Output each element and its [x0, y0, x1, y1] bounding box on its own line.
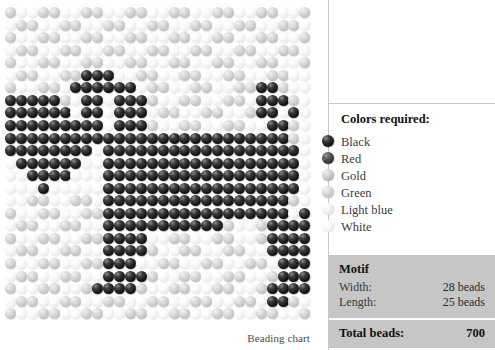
- bead: [267, 82, 278, 93]
- bead: [5, 45, 16, 56]
- bead: [125, 308, 136, 319]
- bead: [169, 195, 180, 206]
- bead: [136, 95, 147, 106]
- motif-length-value: 25 beads: [443, 295, 485, 310]
- bead: [256, 170, 267, 181]
- bead: [38, 283, 49, 294]
- bead: [245, 158, 256, 169]
- bead: [136, 308, 147, 319]
- bead: [169, 82, 180, 93]
- bead: [49, 170, 60, 181]
- bead: [5, 107, 16, 118]
- bead: [49, 45, 60, 56]
- bead: [5, 133, 16, 144]
- bead: [103, 70, 114, 81]
- bead: [60, 20, 71, 31]
- motif-width-row: Width: 28 beads: [339, 280, 485, 295]
- bead: [223, 283, 234, 294]
- bead: [5, 296, 16, 307]
- bead: [234, 107, 245, 118]
- bead: [136, 220, 147, 231]
- bead: [223, 308, 234, 319]
- bead: [190, 95, 201, 106]
- bead: [114, 195, 125, 206]
- bead: [125, 107, 136, 118]
- bead: [81, 220, 92, 231]
- bead: [278, 296, 289, 307]
- legend-label: Black: [341, 135, 370, 149]
- bead: [179, 45, 190, 56]
- bead: [212, 57, 223, 68]
- bead: [60, 245, 71, 256]
- bead: [114, 233, 125, 244]
- bead: [103, 20, 114, 31]
- bead: [16, 82, 27, 93]
- bead: [103, 170, 114, 181]
- bead: [158, 195, 169, 206]
- bead: [38, 82, 49, 93]
- bead: [81, 208, 92, 219]
- bead: [136, 195, 147, 206]
- bead: [158, 133, 169, 144]
- bead: [70, 20, 81, 31]
- bead: [179, 7, 190, 18]
- bead: [81, 296, 92, 307]
- bead: [256, 57, 267, 68]
- bead: [81, 95, 92, 106]
- bead: [38, 220, 49, 231]
- legend-title: Colors required:: [341, 112, 495, 127]
- bead: [27, 220, 38, 231]
- bead: [245, 32, 256, 43]
- bead: [147, 283, 158, 294]
- bead: [190, 32, 201, 43]
- bead: [125, 183, 136, 194]
- bead: [70, 183, 81, 194]
- bead: [16, 195, 27, 206]
- bead: [179, 283, 190, 294]
- bead: [38, 7, 49, 18]
- bead: [136, 45, 147, 56]
- bead: [288, 45, 299, 56]
- bead: [103, 308, 114, 319]
- bead: [179, 95, 190, 106]
- bead: [81, 120, 92, 131]
- bead: [256, 283, 267, 294]
- bead: [256, 296, 267, 307]
- bead: [169, 183, 180, 194]
- bead: [16, 183, 27, 194]
- bead: [299, 107, 310, 118]
- bead: [223, 170, 234, 181]
- bead: [223, 120, 234, 131]
- bead: [299, 133, 310, 144]
- bead: [201, 158, 212, 169]
- bead: [234, 158, 245, 169]
- bead: [179, 233, 190, 244]
- bead: [288, 158, 299, 169]
- bead: [201, 170, 212, 181]
- motif-length-row: Length: 25 beads: [339, 295, 485, 310]
- bead: [212, 95, 223, 106]
- bead: [92, 145, 103, 156]
- bead: [288, 107, 299, 118]
- bead: [92, 158, 103, 169]
- bead: [158, 107, 169, 118]
- bead: [256, 133, 267, 144]
- bead: [212, 308, 223, 319]
- bead: [169, 208, 180, 219]
- bead: [245, 120, 256, 131]
- bead: [60, 145, 71, 156]
- bead: [201, 245, 212, 256]
- bead: [288, 145, 299, 156]
- bead: [201, 32, 212, 43]
- bead: [147, 158, 158, 169]
- bead: [201, 183, 212, 194]
- bead: [114, 57, 125, 68]
- bead: [5, 145, 16, 156]
- bead: [267, 32, 278, 43]
- bead: [70, 82, 81, 93]
- bead: [38, 107, 49, 118]
- bead: [245, 283, 256, 294]
- legend-item-list: BlackRedGoldGreenLight blueWhite: [320, 132, 495, 234]
- legend-item: Red: [320, 149, 495, 166]
- bead: [234, 133, 245, 144]
